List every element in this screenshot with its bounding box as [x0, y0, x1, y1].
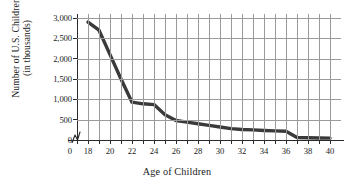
- gridline-vertical: [110, 14, 111, 140]
- x-tick-mark: [242, 141, 243, 144]
- gridline-vertical: [209, 14, 210, 140]
- y-tick-mark: [73, 99, 77, 100]
- x-tick-label: 38: [304, 146, 313, 156]
- x-tick-mark: [231, 141, 232, 144]
- x-tick-label: 20: [106, 146, 115, 156]
- x-tick-label: 28: [194, 146, 203, 156]
- gridline-vertical: [330, 14, 331, 140]
- gridline-vertical: [121, 14, 122, 140]
- y-axis-title: Number of U.S. Children (in thousands): [6, 0, 36, 108]
- gridline-vertical: [99, 14, 100, 140]
- x-tick-label: 40: [326, 146, 335, 156]
- gridline-vertical: [187, 14, 188, 140]
- y-tick-mark: [73, 140, 77, 141]
- y-tick-mark: [73, 119, 77, 120]
- x-tick-mark: [330, 141, 331, 144]
- y-tick-label: 1,500: [53, 74, 72, 84]
- x-tick-label: 34: [260, 146, 269, 156]
- y-tick-mark: [73, 38, 77, 39]
- gridline-vertical: [264, 14, 265, 140]
- x-tick-mark: [99, 141, 100, 144]
- x-tick-mark: [209, 141, 210, 144]
- y-tick-label: 1,000: [53, 94, 72, 104]
- x-tick-mark: [143, 141, 144, 144]
- x-tick-mark: [110, 141, 111, 144]
- y-tick-label: 3,000: [53, 13, 72, 23]
- x-axis-tick-labels: 0182022242628303234363840: [0, 146, 354, 160]
- x-tick-mark: [264, 141, 265, 144]
- x-tick-mark: [121, 141, 122, 144]
- y-tick-mark: [73, 58, 77, 59]
- x-tick-mark: [253, 141, 254, 144]
- x-tick-mark: [198, 141, 199, 144]
- gridline-vertical: [132, 14, 133, 140]
- x-tick-label: 0: [68, 146, 72, 156]
- x-tick-mark: [165, 141, 166, 144]
- gridline-vertical: [220, 14, 221, 140]
- y-tick-label: 2,000: [53, 54, 72, 64]
- x-tick-mark: [319, 141, 320, 144]
- x-tick-mark: [220, 141, 221, 144]
- y-axis-title-line-2: (in thousands): [21, 20, 32, 76]
- chart-figure: Number of U.S. Children (in thousands) 0…: [0, 0, 354, 196]
- gridline-vertical: [319, 14, 320, 140]
- gridline-vertical: [253, 14, 254, 140]
- x-tick-label: 32: [238, 146, 247, 156]
- y-tick-mark: [73, 79, 77, 80]
- y-tick-mark: [73, 18, 77, 19]
- x-tick-label: 18: [84, 146, 93, 156]
- gridline-vertical: [242, 14, 243, 140]
- x-tick-label: 26: [172, 146, 181, 156]
- plot-area: [77, 18, 341, 140]
- x-tick-mark: [187, 141, 188, 144]
- gridline-vertical: [297, 14, 298, 140]
- gridline-vertical: [143, 14, 144, 140]
- gridline-vertical: [275, 14, 276, 140]
- x-tick-mark: [308, 141, 309, 144]
- x-tick-label: 24: [150, 146, 159, 156]
- gridline-vertical: [231, 14, 232, 140]
- y-tick-label: 500: [59, 115, 72, 125]
- y-tick-label: 2,500: [53, 33, 72, 43]
- x-tick-mark: [176, 141, 177, 144]
- x-tick-label: 36: [282, 146, 291, 156]
- x-tick-label: 30: [216, 146, 225, 156]
- x-tick-label: 22: [128, 146, 137, 156]
- x-tick-mark: [297, 141, 298, 144]
- x-tick-mark: [286, 141, 287, 144]
- x-axis-title: Age of Children: [0, 166, 354, 177]
- x-tick-mark: [275, 141, 276, 144]
- gridline-vertical: [308, 14, 309, 140]
- x-tick-mark: [154, 141, 155, 144]
- gridline-vertical: [88, 14, 89, 140]
- gridline-vertical: [176, 14, 177, 140]
- x-tick-mark: [88, 141, 89, 144]
- gridline-vertical: [165, 14, 166, 140]
- gridline-vertical: [154, 14, 155, 140]
- gridline-vertical: [198, 14, 199, 140]
- x-tick-mark: [132, 141, 133, 144]
- gridline-vertical: [286, 14, 287, 140]
- y-axis-title-line-1: Number of U.S. Children: [10, 0, 21, 98]
